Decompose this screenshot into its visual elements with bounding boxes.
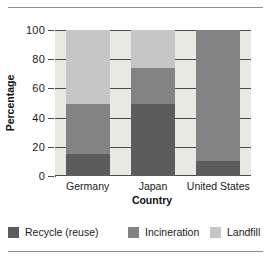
x-axis-tick-label: Japan — [139, 180, 168, 192]
bar-germany[interactable] — [66, 30, 110, 176]
y-axis-tick-label: 40 — [32, 112, 45, 124]
y-axis-tick-label: 100 — [26, 24, 45, 36]
legend-swatch-icon — [210, 227, 221, 238]
bar-segment-recycle[interactable] — [131, 104, 175, 176]
legend-swatch-icon — [8, 227, 19, 238]
legend-item-label: Incineration — [145, 226, 199, 238]
bar-segment-incineration[interactable] — [196, 30, 240, 161]
y-axis-tickmark — [48, 59, 54, 60]
x-axis-title: Country — [132, 194, 172, 206]
y-axis-tickmark — [48, 176, 54, 177]
bar-japan[interactable] — [131, 30, 175, 176]
legend-item[interactable]: Recycle (reuse) — [8, 226, 128, 238]
legend-item-label: Recycle (reuse) — [25, 226, 99, 238]
bar-segment-recycle[interactable] — [66, 154, 110, 176]
chart-legend: Recycle (reuse)IncinerationLandfill — [8, 226, 265, 238]
y-axis-tickmark — [48, 118, 54, 119]
y-axis-tick-label: 20 — [32, 141, 45, 153]
legend-item-label: Landfill — [227, 226, 260, 238]
legend-item[interactable]: Landfill — [210, 226, 260, 238]
chart-figure: Percentage 020406080100 GermanyJapanUnit… — [0, 0, 271, 260]
top-divider-rule — [8, 7, 263, 8]
legend-swatch-icon — [128, 227, 139, 238]
y-axis-tick-label: 60 — [32, 82, 45, 94]
bar-segment-incineration[interactable] — [131, 68, 175, 105]
y-axis-tickmark — [48, 88, 54, 89]
bar-segment-recycle[interactable] — [196, 161, 240, 176]
bottom-divider-rule — [8, 251, 263, 252]
bar-segment-landfill[interactable] — [131, 30, 175, 68]
bar-segment-incineration[interactable] — [66, 104, 110, 154]
x-axis-tick-label: Germany — [66, 180, 109, 192]
legend-item[interactable]: Incineration — [128, 226, 210, 238]
y-axis-title: Percentage — [4, 75, 16, 132]
y-axis-tick-label: 80 — [32, 53, 45, 65]
y-axis-tickmark — [48, 147, 54, 148]
y-axis-tick-label: 0 — [39, 170, 45, 182]
plot-area — [55, 30, 251, 176]
bar-segment-landfill[interactable] — [66, 30, 110, 104]
bar-united-states[interactable] — [196, 30, 240, 176]
y-axis-tickmark — [48, 30, 54, 31]
x-axis-tick-label: United States — [187, 180, 250, 192]
